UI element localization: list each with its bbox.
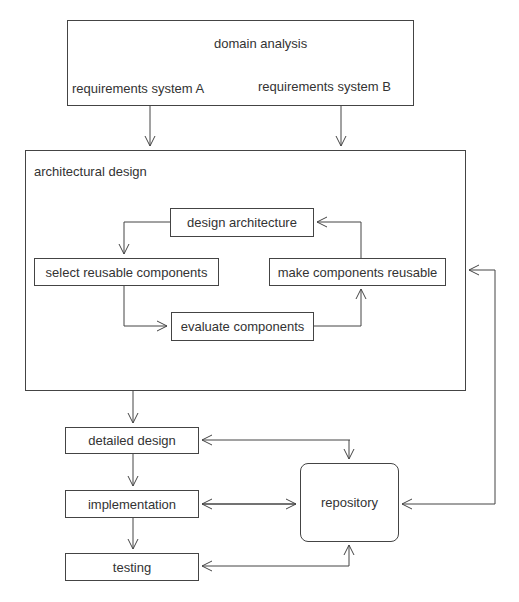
domain-analysis-box[interactable]: domain analysis requirements system A re…	[67, 20, 414, 106]
architectural-design-title: architectural design	[34, 164, 147, 179]
select-reusable-components-node[interactable]: select reusable components	[34, 258, 219, 286]
domain-analysis-title: domain analysis	[214, 36, 307, 51]
requirements-system-b-label: requirements system B	[258, 79, 391, 94]
make-components-reusable-node[interactable]: make components reusable	[269, 258, 446, 286]
detailed-design-node[interactable]: detailed design	[65, 427, 199, 454]
evaluate-components-node[interactable]: evaluate components	[171, 312, 314, 341]
testing-node[interactable]: testing	[65, 553, 199, 581]
repository-node[interactable]: repository	[300, 463, 399, 542]
arrow-repo-to-arch	[469, 270, 495, 504]
implementation-node[interactable]: implementation	[65, 490, 199, 518]
design-architecture-node[interactable]: design architecture	[170, 208, 314, 237]
requirements-system-a-label: requirements system A	[72, 81, 204, 96]
